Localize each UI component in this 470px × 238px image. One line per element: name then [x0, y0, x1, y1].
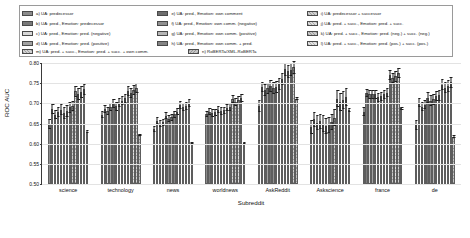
legend-column-1: a) UA: predecessor b) UA: pred., Emotion… — [22, 8, 157, 54]
error-bar — [340, 93, 341, 111]
legend-item-j: j) UA: pred. + succ., Emotion: pred. + s… — [307, 18, 450, 28]
legend-label-n: n) RoBERTa/XML-RoBERTa — [202, 49, 257, 54]
error-bar — [101, 111, 102, 118]
y-tick-mark — [40, 184, 42, 185]
legend-column-3: i) UA: predecessor + successor j) UA: pr… — [307, 8, 450, 54]
legend-swatch-c-icon — [22, 31, 33, 36]
y-gridline — [42, 164, 461, 165]
error-bar — [209, 108, 210, 115]
legend-swatch-m-icon — [22, 49, 33, 54]
y-tick-mark — [40, 83, 42, 84]
legend-item-g: g) UA: pred., Emotion: own comm. (positi… — [157, 28, 306, 38]
error-bar — [110, 103, 111, 111]
error-bar — [386, 88, 387, 97]
error-bar — [180, 101, 181, 109]
y-gridline — [42, 63, 461, 64]
error-bar — [389, 70, 390, 80]
error-bar — [381, 92, 382, 101]
error-bar — [127, 86, 128, 96]
error-bar — [319, 114, 320, 129]
error-bar — [235, 98, 236, 106]
error-bar — [75, 86, 76, 97]
legend-item-i: i) UA: predecessor + successor — [307, 8, 450, 18]
error-bar — [66, 105, 67, 116]
x-tick-label: france — [375, 187, 390, 193]
legend-swatch-b-icon — [22, 21, 33, 26]
y-tick-label: 0.70 — [29, 100, 39, 106]
error-bar — [267, 83, 268, 94]
bar — [400, 108, 402, 184]
y-gridline — [42, 103, 461, 104]
legend-label-k: k) UA: pred. + succ., Emotion: pred. (ne… — [321, 31, 430, 36]
legend-column-2: e) UA: pred., Emotion: own comment f) UA… — [157, 8, 306, 54]
error-bar — [395, 71, 396, 81]
error-bar — [107, 107, 108, 115]
error-bar — [215, 109, 216, 116]
roc-auc-bar-chart-figure: a) UA: predecessor b) UA: pred., Emotion… — [0, 0, 470, 238]
y-gridline — [42, 144, 461, 145]
error-bar — [378, 93, 379, 102]
error-bar — [392, 73, 393, 83]
error-bar — [206, 111, 207, 117]
error-bar — [130, 88, 131, 98]
x-tick-label: technology — [108, 187, 134, 193]
error-bar — [229, 103, 230, 110]
error-bar — [221, 107, 222, 114]
legend-swatch-i-icon — [307, 11, 318, 16]
y-gridline — [42, 83, 461, 84]
error-bar — [366, 89, 367, 97]
legend-swatch-l-icon — [307, 41, 318, 46]
legend-item-h: h) UA: pred., Emotion: own comm. + pred. — [157, 39, 306, 49]
legend-label-m: m) UA: pred. + succ., Emotion: pred. + s… — [36, 49, 149, 54]
legend-item-a: a) UA: predecessor — [22, 8, 157, 18]
legend-label-f: f) UA: pred., Emotion: own comm. (negati… — [171, 21, 257, 26]
error-bar — [427, 92, 428, 102]
error-bar — [314, 112, 315, 127]
error-bar — [174, 111, 175, 118]
bar — [295, 99, 297, 185]
error-bar — [60, 104, 61, 115]
error-bar — [171, 114, 172, 121]
error-bar — [78, 88, 79, 99]
y-tick-label: 0.80 — [29, 60, 39, 66]
legend-label-c: c) UA: pred., Emotion: pred. (negative) — [36, 31, 110, 36]
error-bar — [401, 107, 402, 110]
legend-swatch-h-icon — [157, 41, 168, 46]
legend-label-e: e) UA: pred., Emotion: own comment — [171, 11, 242, 16]
error-bar — [453, 135, 454, 138]
y-tick-mark — [40, 103, 42, 104]
error-bar — [177, 108, 178, 115]
x-tick-label: news — [167, 187, 180, 193]
chart-axes: sciencetechnologynewsworldnewsAskRedditA… — [41, 63, 461, 185]
error-bar — [81, 86, 82, 97]
error-bar — [273, 82, 274, 94]
legend-item-c: c) UA: pred., Emotion: pred. (negative) — [22, 28, 157, 38]
legend-label-h: h) UA: pred., Emotion: own comm. + pred. — [171, 41, 252, 46]
legend-swatch-j-icon — [307, 21, 318, 26]
error-bar — [375, 90, 376, 99]
error-bar — [296, 97, 297, 100]
bar — [348, 110, 350, 184]
error-bar — [133, 85, 134, 95]
error-bar — [372, 90, 373, 99]
legend-swatch-a-icon — [22, 11, 33, 16]
x-tick-label: AskReddit — [265, 187, 290, 193]
legend-item-m: m) UA: pred. + succ., Emotion: pred. + s… — [22, 49, 149, 54]
error-bar — [124, 94, 125, 103]
error-bar — [369, 90, 370, 99]
error-bar — [279, 78, 280, 90]
legend-label-a: a) UA: predecessor — [36, 11, 73, 16]
x-axis-label: Subreddit — [41, 199, 461, 206]
error-bar — [258, 100, 259, 112]
x-tick-label: worldnews — [213, 187, 238, 193]
error-bar — [232, 95, 233, 103]
error-bar — [311, 120, 312, 135]
error-bar — [416, 120, 417, 130]
y-tick-mark — [40, 63, 42, 64]
y-gridline — [42, 184, 461, 185]
legend-item-d: d) UA: pred., Emotion: pred. (positive) — [22, 39, 157, 49]
error-bar — [337, 90, 338, 108]
legend-item-b: b) UA: pred., Emotion: predecessor — [22, 18, 157, 28]
error-bar — [383, 90, 384, 99]
legend-item-k: k) UA: pred. + succ., Emotion: pred. (ne… — [307, 28, 450, 38]
